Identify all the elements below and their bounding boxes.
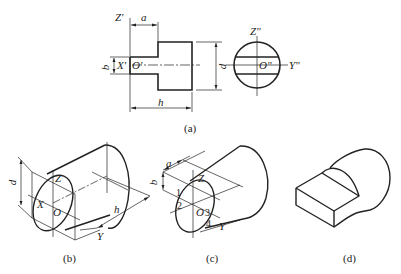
panel-d-drawing: [0, 0, 401, 274]
figure-canvas: Z' a b X' O' d h Z" O" Y" (a): [0, 0, 401, 274]
caption-d: (d): [343, 253, 356, 264]
